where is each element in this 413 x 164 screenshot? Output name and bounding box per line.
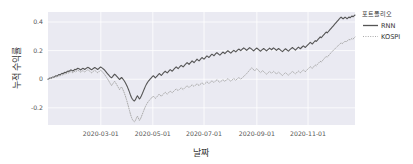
y-tick-label-0: -0.2: [31, 104, 43, 111]
x-axis-label: 날짜: [193, 148, 210, 158]
chart-figure: -0.200.20.4 2020-03-012020-05-012020-07-…: [0, 0, 413, 164]
x-tick-label-4: 2020-11-01: [290, 130, 326, 137]
legend: 포트폴리오 RNNKOSPI: [362, 10, 400, 41]
y-tick-label-2: 0.2: [33, 47, 43, 54]
legend-entries: RNNKOSPI: [363, 22, 400, 41]
y-tick-label-3: 0.4: [33, 18, 43, 25]
x-tick-labels: 2020-03-012020-05-012020-07-012020-09-01…: [83, 130, 326, 137]
legend-title: 포트폴리오: [362, 10, 392, 18]
cumulative-return-line-chart: -0.200.20.4 2020-03-012020-05-012020-07-…: [0, 0, 413, 164]
legend-label-rnn: RNN: [381, 22, 396, 30]
x-tick-label-0: 2020-03-01: [83, 130, 119, 137]
x-tick-label-1: 2020-05-01: [135, 130, 171, 137]
x-tick-label-3: 2020-09-01: [239, 130, 275, 137]
x-tick-label-2: 2020-07-01: [186, 130, 222, 137]
y-axis-label: 누적 수익률: [11, 47, 22, 90]
y-tick-labels: -0.200.20.4: [31, 18, 43, 111]
legend-label-kospi: KOSPI: [381, 33, 400, 41]
y-tick-label-1: 0: [39, 75, 43, 82]
